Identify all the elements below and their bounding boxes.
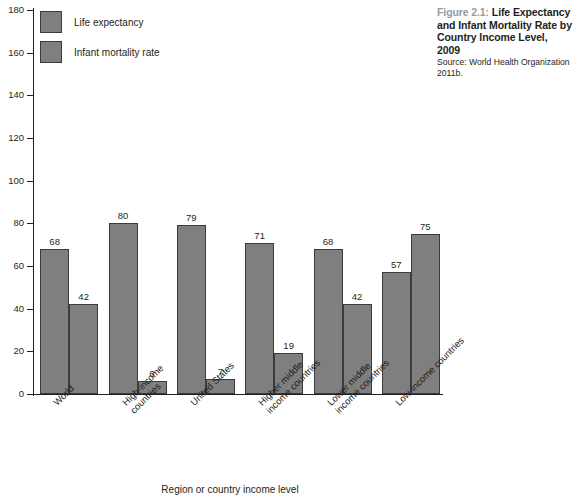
bar-value-label: 68 (304, 236, 353, 247)
bar-value-label: 75 (401, 221, 450, 232)
y-axis-tick (27, 394, 33, 395)
y-axis-tick (27, 10, 33, 11)
y-axis-tick-label: 0 (0, 388, 24, 399)
bar (245, 243, 274, 394)
y-axis-tick (27, 53, 33, 54)
y-axis-tick-label: 80 (0, 217, 24, 228)
y-axis-tick-label: 180 (0, 4, 24, 15)
y-axis-tick-label: 20 (0, 345, 24, 356)
y-axis-tick (27, 351, 33, 352)
y-axis-line (33, 8, 34, 396)
legend-label-life-expectancy: Life expectancy (74, 17, 144, 28)
bar-value-label: 80 (99, 210, 148, 221)
figure-source: Source: World Health Organization 2011b. (437, 57, 573, 78)
y-axis-tick-label: 160 (0, 47, 24, 58)
bar (40, 249, 69, 394)
chart-legend: Life expectancy Infant mortality rate (40, 11, 160, 71)
bar-value-label: 79 (167, 212, 216, 223)
bar (382, 272, 411, 394)
figure-caption: Figure 2.1: Life Expectancy and Infant M… (437, 6, 573, 78)
legend-swatch-life-expectancy (40, 11, 62, 33)
y-axis-tick-label: 120 (0, 132, 24, 143)
y-axis-tick (27, 309, 33, 310)
legend-swatch-infant-mortality-rate (40, 41, 62, 63)
bar (69, 304, 98, 394)
figure-title-line: Figure 2.1: Life Expectancy and Infant M… (437, 6, 573, 56)
bar-value-label: 42 (59, 291, 108, 302)
y-axis-tick-label: 100 (0, 175, 24, 186)
figure-number: Figure 2.1: (437, 6, 489, 18)
bar (314, 249, 343, 394)
legend-label-infant-mortality-rate: Infant mortality rate (74, 47, 160, 58)
bar-value-label: 71 (235, 230, 284, 241)
y-axis-tick (27, 95, 33, 96)
y-axis-tick (27, 223, 33, 224)
bar-value-label: 42 (333, 291, 382, 302)
y-axis-tick (27, 138, 33, 139)
y-axis-tick (27, 266, 33, 267)
chart-area: 020406080100120140160180 684280679771196… (0, 0, 460, 499)
y-axis-tick-label: 140 (0, 89, 24, 100)
legend-item-life-expectancy: Life expectancy (40, 11, 160, 33)
bar-value-label: 68 (30, 236, 79, 247)
x-axis-title: Region or country income level (0, 484, 460, 495)
y-axis-tick (27, 181, 33, 182)
y-axis-tick-label: 40 (0, 303, 24, 314)
legend-item-infant-mortality-rate: Infant mortality rate (40, 41, 160, 63)
x-axis-line (33, 394, 443, 395)
y-axis-tick-label: 60 (0, 260, 24, 271)
